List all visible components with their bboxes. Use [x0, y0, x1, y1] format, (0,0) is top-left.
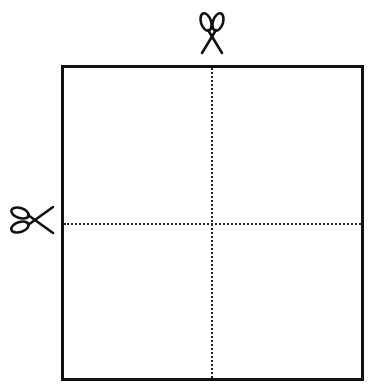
paper-square: [61, 65, 364, 381]
scissors-icon-left: [8, 203, 56, 237]
horizontal-cut-line: [64, 223, 361, 225]
scissors-icon-top: [196, 10, 228, 56]
